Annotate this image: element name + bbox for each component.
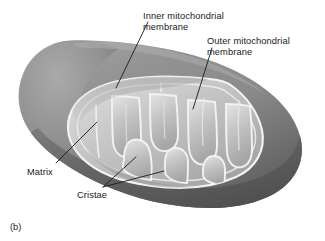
crista-fold-7 [203, 156, 225, 185]
mitochondrion-figure: Inner mitochondrial membrane Outer mitoc… [0, 0, 325, 241]
crista-fold-6 [165, 148, 188, 183]
label-cristae: Cristae [77, 190, 107, 201]
figure-caption: (b) [10, 222, 21, 232]
label-outer-membrane-line2: membrane [207, 47, 290, 58]
label-inner-membrane-line1: Inner mitochondrial [143, 11, 224, 22]
label-inner-mitochondrial-membrane: Inner mitochondrial membrane [143, 11, 224, 32]
label-outer-membrane-line1: Outer mitochondrial [207, 36, 290, 47]
label-outer-mitochondrial-membrane: Outer mitochondrial membrane [207, 36, 290, 57]
label-inner-membrane-line2: membrane [143, 22, 224, 33]
crista-ridge-4 [238, 100, 239, 150]
label-matrix: Matrix [27, 167, 53, 178]
